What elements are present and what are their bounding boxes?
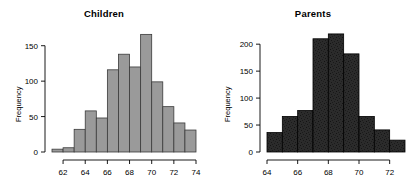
histogram-bar [118,54,129,152]
histogram-bar [141,34,152,152]
svg-text:72: 72 [169,168,178,177]
histogram-bar [52,149,63,152]
histogram-bar [96,118,107,152]
histogram-bar [163,107,174,152]
svg-text:70: 70 [147,168,156,177]
histogram-bar [298,110,313,152]
svg-text:68: 68 [125,168,134,177]
svg-text:0: 0 [34,148,39,157]
histogram-bar [267,133,282,152]
histogram-bar [185,130,196,152]
svg-text:66: 66 [293,168,302,177]
svg-text:66: 66 [103,168,112,177]
histogram-bar [374,130,389,152]
histogram-bar [152,82,163,152]
histogram-parents: 0501001502006466687072 [209,0,417,194]
histogram-bar [74,129,85,152]
svg-text:150: 150 [25,42,39,51]
svg-text:50: 50 [29,113,38,122]
svg-text:64: 64 [81,168,90,177]
chart-panel-children: Children Frequency 050100150626466687072… [0,0,208,194]
svg-text:100: 100 [240,94,254,103]
histogram-bar [130,67,141,152]
histogram-bar [313,39,328,152]
histogram-bar [85,111,96,152]
histogram-bar [328,34,343,152]
chart-panel-parents: Parents Frequency 0501001502006466687072 [209,0,417,194]
svg-text:62: 62 [59,168,68,177]
svg-text:100: 100 [25,77,39,86]
histogram-bar [107,70,118,152]
histogram-bar [390,140,405,152]
svg-text:150: 150 [240,67,254,76]
histogram-bar [174,123,185,152]
svg-text:200: 200 [240,40,254,49]
svg-text:50: 50 [244,121,253,130]
histogram-children: 05010015062646668707274 [0,0,208,194]
figure-canvas: Children Frequency 050100150626466687072… [0,0,417,194]
svg-text:0: 0 [249,148,254,157]
svg-text:74: 74 [192,168,201,177]
svg-text:72: 72 [385,168,394,177]
svg-text:64: 64 [263,168,272,177]
histogram-bar [282,116,297,152]
histogram-bar [63,148,74,152]
histogram-bar [344,54,359,152]
svg-text:70: 70 [355,168,364,177]
histogram-bar [359,116,374,152]
svg-text:68: 68 [324,168,333,177]
